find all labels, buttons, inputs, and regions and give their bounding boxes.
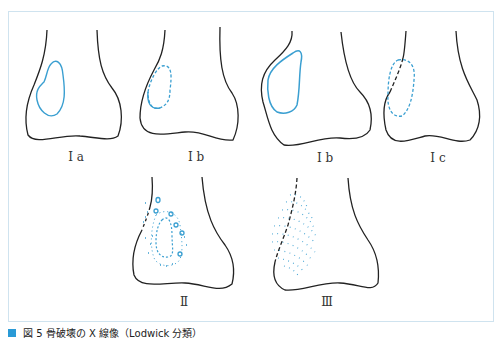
bone-ia [26,30,122,140]
label-ib-1: I b [176,150,216,164]
lesion-ib-2 [268,51,302,113]
figure-caption: 図 5 骨破壊の X 線像（Lodwick 分類） [8,325,202,339]
bone-ii [133,177,234,288]
bone-ib-2 [261,31,371,145]
label-ia: I a [56,150,96,164]
bone-iii [274,178,379,290]
lesion-ic [388,60,414,117]
bone-ib-1 [140,27,238,140]
lesion-ia [37,61,65,116]
label-ib-2: I b [305,151,345,165]
lesion-iii [272,195,316,278]
label-ic: I c [418,151,458,165]
lesion-ib-1 [148,66,171,109]
caption-marker-icon [8,329,16,337]
bone-ic [384,31,480,141]
label-ii: Ⅱ [164,295,204,309]
caption-text: 図 5 骨破壊の X 線像（Lodwick 分類） [23,328,202,339]
label-iii: Ⅲ [307,295,347,309]
